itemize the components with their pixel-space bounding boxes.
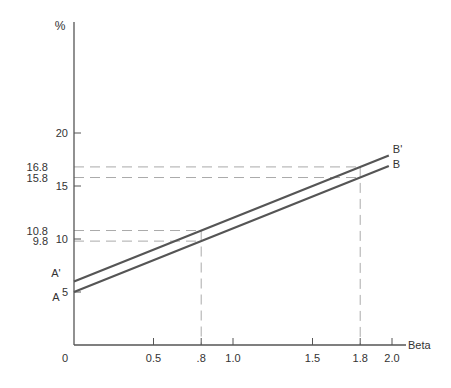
x-tick-label: .8 bbox=[197, 352, 206, 364]
reference-label: 15.8 bbox=[27, 172, 48, 184]
origin-label: 0 bbox=[62, 352, 68, 364]
x-tick-label: 1.0 bbox=[225, 352, 240, 364]
y-tick-label: 5 bbox=[62, 286, 68, 298]
line-start-label: A bbox=[52, 291, 60, 303]
x-tick-label: 2.0 bbox=[384, 352, 399, 364]
line-start-label: A' bbox=[51, 267, 60, 279]
sml-chart: 16.815.810.89.8%Beta051015200.5.81.01.51… bbox=[0, 0, 451, 388]
y-tick-label: 10 bbox=[56, 233, 68, 245]
x-tick-label: 1.5 bbox=[305, 352, 320, 364]
chart-canvas: 16.815.810.89.8%Beta051015200.5.81.01.51… bbox=[0, 0, 451, 388]
line-end-label: B bbox=[393, 158, 400, 170]
sml-line-a bbox=[74, 166, 389, 292]
y-axis-label: % bbox=[55, 19, 66, 33]
x-tick-label: 0.5 bbox=[146, 352, 161, 364]
line-end-label: B' bbox=[393, 143, 402, 155]
x-axis-label: Beta bbox=[408, 339, 432, 351]
x-tick-label: 1.8 bbox=[353, 352, 368, 364]
sml-line-a-prime bbox=[74, 155, 389, 281]
y-tick-label: 15 bbox=[56, 180, 68, 192]
y-tick-label: 20 bbox=[56, 127, 68, 139]
reference-label: 9.8 bbox=[33, 235, 48, 247]
